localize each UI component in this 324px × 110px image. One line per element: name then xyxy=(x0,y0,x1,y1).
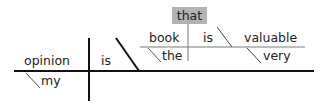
complement-slant xyxy=(116,38,139,71)
word-is-clause: is xyxy=(203,31,213,45)
word-very: very xyxy=(263,49,291,63)
modifier-slant-my xyxy=(26,73,40,88)
sentence-diagram: opinion my is that book the is valuable … xyxy=(0,0,324,110)
word-valuable: valuable xyxy=(244,31,297,45)
relative-pronoun-box: that xyxy=(172,7,207,24)
word-the: the xyxy=(162,49,183,63)
word-my: my xyxy=(41,74,61,88)
modifier-slant-the xyxy=(148,48,161,62)
word-book: book xyxy=(149,31,179,45)
clause-complement-slant xyxy=(217,27,232,47)
word-that: that xyxy=(172,8,207,23)
modifier-slant-very xyxy=(247,48,261,63)
word-is-main: is xyxy=(101,54,111,68)
word-opinion: opinion xyxy=(24,54,70,68)
